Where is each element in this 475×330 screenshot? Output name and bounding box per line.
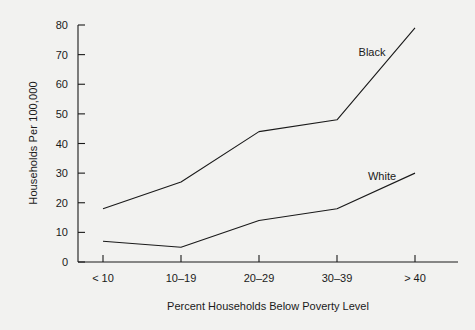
y-tick-label: 20 [44, 197, 68, 209]
x-tick-label: 30–39 [307, 272, 367, 284]
data-series-group [103, 28, 415, 247]
y-tick-label: 30 [44, 167, 68, 179]
y-tick-label: 50 [44, 108, 68, 120]
x-axis-title: Percent Households Below Poverty Level [78, 300, 458, 312]
y-tick-label: 80 [44, 19, 68, 31]
y-tick-label: 40 [44, 138, 68, 150]
x-tick-marks [103, 255, 415, 262]
y-tick-marks [78, 25, 85, 262]
x-tick-label: > 40 [385, 272, 445, 284]
y-tick-label: 60 [44, 78, 68, 90]
x-tick-label: 20–29 [229, 272, 289, 284]
y-tick-label: 70 [44, 49, 68, 61]
series-label-black: Black [359, 46, 386, 58]
x-tick-label: 10–19 [151, 272, 211, 284]
series-label-white: White [368, 170, 396, 182]
axes-group [78, 25, 458, 262]
series-line-white [103, 173, 415, 247]
y-tick-label: 10 [44, 226, 68, 238]
x-tick-label: < 10 [73, 272, 133, 284]
chart-container: Households Per 100,000 01020304050607080… [0, 0, 475, 330]
y-tick-label: 0 [44, 256, 68, 268]
